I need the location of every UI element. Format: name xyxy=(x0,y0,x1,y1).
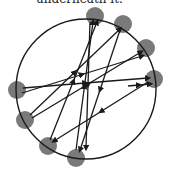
circular-graph-diagram xyxy=(0,0,169,173)
edge-arrowhead xyxy=(80,75,82,76)
edges-layer xyxy=(22,22,150,150)
edge-arrowhead xyxy=(100,88,101,90)
edge-arrowhead xyxy=(101,110,103,111)
graph-node xyxy=(86,7,104,25)
edge-arrowhead xyxy=(73,81,74,83)
edge-arrowhead xyxy=(85,85,87,86)
graph-node xyxy=(39,137,57,155)
edge-arrowhead xyxy=(74,72,75,73)
